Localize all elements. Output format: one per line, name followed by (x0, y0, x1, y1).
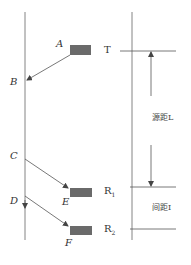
receiver1-block (70, 188, 92, 197)
label-point-c: C (10, 151, 18, 161)
ray-c-to-e (25, 159, 68, 188)
label-point-a: A (56, 39, 63, 49)
label-point-e: E (62, 197, 69, 207)
label-spacing: 间距I (152, 204, 171, 212)
receiver2-block (70, 226, 92, 235)
label-receiver1: R1 (104, 186, 115, 198)
label-transmitter: T (104, 45, 111, 55)
label-receiver2: R2 (104, 224, 115, 236)
label-point-f: F (65, 238, 72, 248)
ray-a-to-b (27, 55, 70, 80)
label-source-distance: 源距L (152, 114, 173, 122)
label-point-b: B (10, 77, 17, 87)
label-point-d: D (10, 196, 18, 206)
transmitter-block (70, 45, 91, 55)
diagram-canvas (0, 0, 191, 265)
